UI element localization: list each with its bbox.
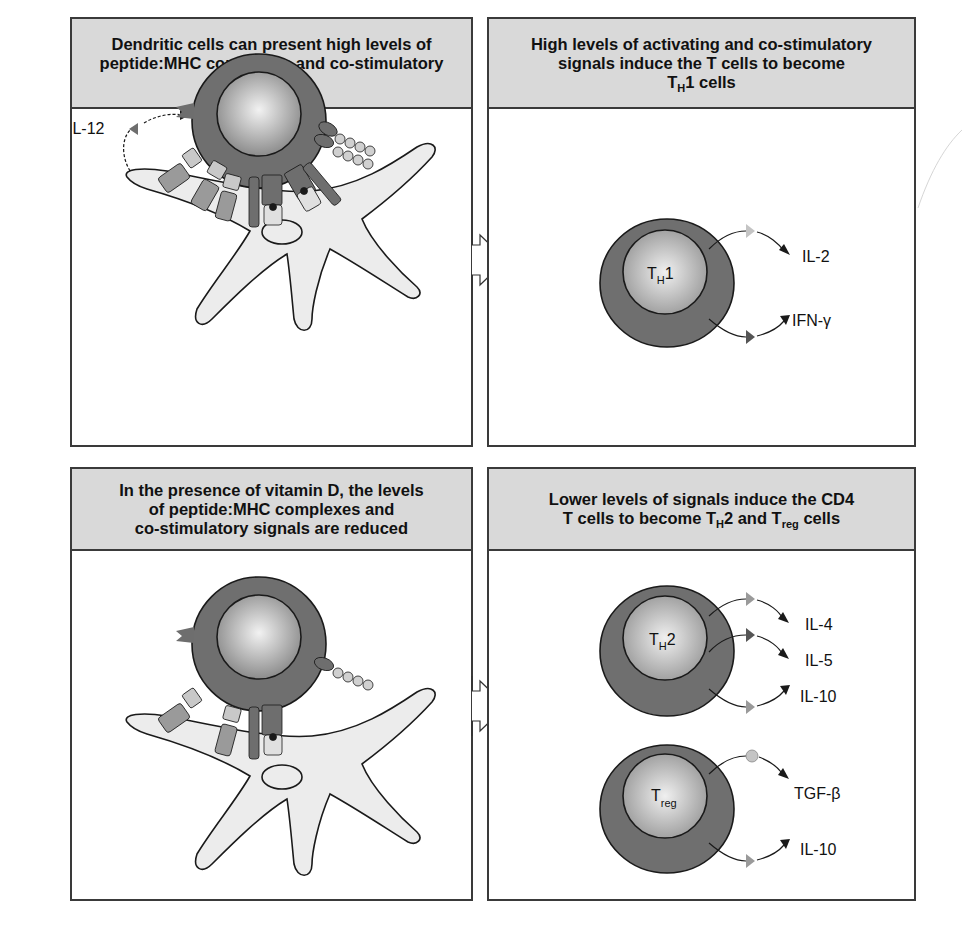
panel-vitamin-d-reduced: In the presence of vitamin D, the levels… <box>70 467 473 901</box>
dc-nucleus-icon <box>262 765 302 789</box>
panel-th1-induction: High levels of activating and co-stimula… <box>487 17 916 447</box>
il5-label: IL-5 <box>805 652 833 669</box>
page-edge-decoration <box>916 120 963 210</box>
il12-triangle-icon <box>129 123 138 135</box>
arrowhead-icon <box>779 244 790 255</box>
ifng-label: IFN-γ <box>792 312 831 329</box>
il5-triangle-icon <box>746 628 755 642</box>
il12-label: IL-12 <box>72 120 105 137</box>
il10-label: IL-10 <box>800 841 837 858</box>
panel-th2-treg-induction: Lower levels of signals induce the CD4 T… <box>487 467 916 901</box>
il4-triangle-icon <box>746 592 755 606</box>
t-cell-nucleus-icon <box>217 72 301 156</box>
dendritic-cell-vitamin-d-illustration <box>72 469 471 899</box>
t-cell-nucleus-icon <box>217 595 301 679</box>
receptor-notch-icon <box>176 103 194 119</box>
th2-nucleus-icon <box>623 596 707 680</box>
il2-triangle-icon <box>746 224 755 238</box>
tgfb-label: TGF-β <box>794 785 841 802</box>
th2-treg-cells-illustration: TH2 IL-4 IL-5 IL-10 Treg TGF-β <box>489 469 914 899</box>
ifng-triangle-icon <box>746 330 755 344</box>
il10-triangle-icon <box>746 700 755 714</box>
il2-label: IL-2 <box>802 248 830 265</box>
il10-label: IL-10 <box>800 688 837 705</box>
th1-cell-illustration: TH1 IL-2 IFN-γ <box>489 19 914 445</box>
panel-dc-high-signals: Dendritic cells can present high levels … <box>70 17 473 447</box>
dendritic-cell-tcell-synapse-illustration: IL-12 <box>72 19 471 445</box>
il4-label: IL-4 <box>805 616 833 633</box>
tgfb-circle-icon <box>746 750 758 762</box>
treg-nucleus-icon <box>623 754 707 838</box>
il12-flow-arrow <box>124 114 182 171</box>
receptor-notch-icon <box>176 627 194 643</box>
il10-triangle-icon <box>746 854 755 868</box>
